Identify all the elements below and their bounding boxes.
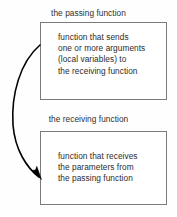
box-passing-function: function that sends one or more argument…	[40, 22, 167, 100]
caption-passing-function: the passing function	[0, 8, 177, 18]
box-passing-function-line-1: function that sends	[58, 32, 145, 43]
curved-arrow-shaft	[13, 45, 40, 177]
box-passing-function-line-3: (local variables) to	[58, 54, 145, 65]
box-receiving-function: function that receives the parameters fr…	[40, 131, 167, 205]
box-receiving-function-line-1: function that receives	[58, 151, 138, 162]
box-passing-function-line-2: one or more arguments	[58, 43, 145, 54]
box-receiving-function-line-2: the parameters from	[58, 162, 138, 173]
box-passing-function-line-4: the receiving function	[58, 66, 145, 77]
caption-receiving-function: the receiving function	[0, 114, 177, 124]
box-receiving-function-text: function that receives the parameters fr…	[58, 151, 138, 185]
diagram-canvas: the passing function function that sends…	[0, 0, 177, 217]
box-receiving-function-line-3: the passing function	[58, 173, 138, 184]
box-passing-function-text: function that sends one or more argument…	[58, 32, 145, 77]
